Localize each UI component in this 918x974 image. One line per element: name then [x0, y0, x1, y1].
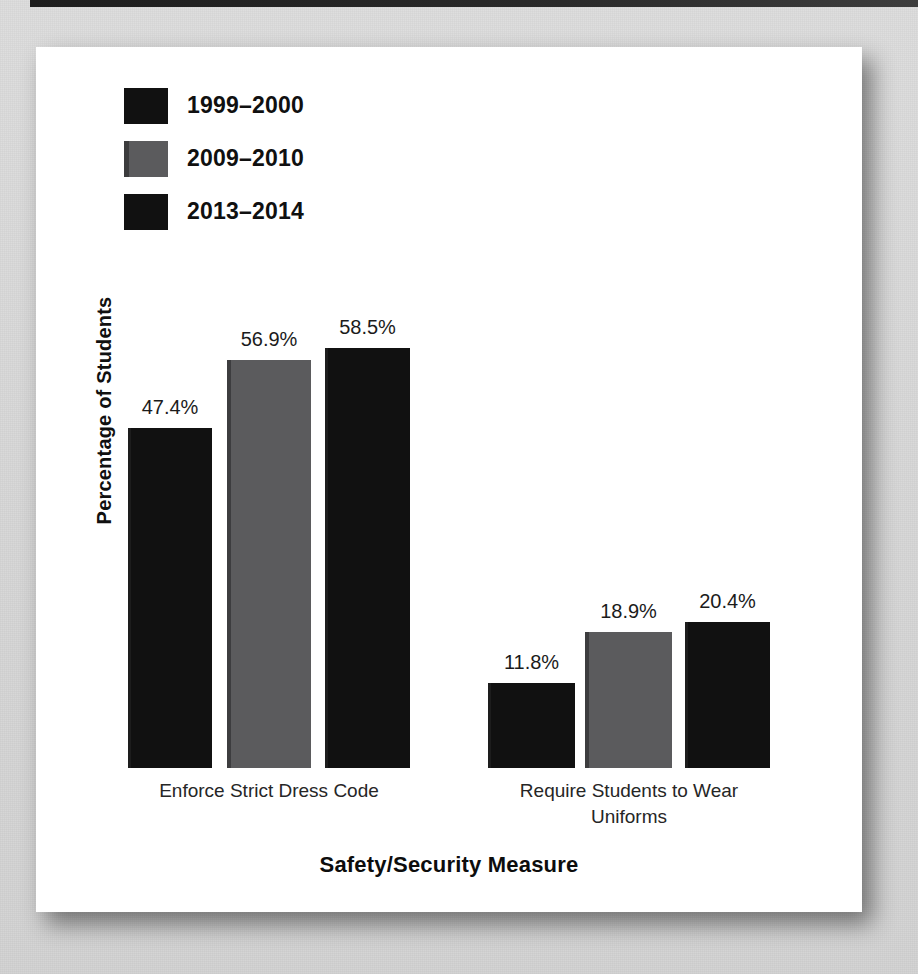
bar-fill	[685, 622, 770, 768]
bar-value-label: 11.8%	[504, 651, 559, 674]
bar-value-label: 18.9%	[600, 600, 657, 623]
bar-fill	[488, 683, 575, 768]
bar-fill	[325, 348, 410, 768]
bar-fill	[227, 360, 311, 768]
bar-enforce-dress-code-2013-2014[interactable]: 58.5%	[325, 348, 410, 768]
bar-require-uniforms-2009-2010[interactable]: 18.9%	[585, 632, 672, 768]
bar-require-uniforms-2013-2014[interactable]: 20.4%	[685, 622, 770, 768]
figure-card: 1999–2000 2009–2010 2013–2014 Percentage…	[36, 47, 862, 912]
bar-value-label: 56.9%	[241, 328, 298, 351]
bar-value-label: 20.4%	[699, 590, 756, 613]
bar-value-label: 58.5%	[339, 316, 396, 339]
bar-enforce-dress-code-2009-2010[interactable]: 56.9%	[227, 360, 311, 768]
page-top-rule	[30, 0, 918, 7]
category-label-require-uniforms: Require Students to Wear Uniforms	[488, 778, 770, 830]
bar-fill	[585, 632, 672, 768]
plot-area: 47.4% 56.9% 58.5% 11.8% 18.9% 20.	[36, 47, 862, 912]
category-label-enforce-dress-code: Enforce Strict Dress Code	[128, 778, 410, 804]
bar-require-uniforms-1999-2000[interactable]: 11.8%	[488, 683, 575, 768]
bar-enforce-dress-code-1999-2000[interactable]: 47.4%	[128, 428, 212, 768]
bar-chart: 1999–2000 2009–2010 2013–2014 Percentage…	[36, 47, 862, 912]
bar-value-label: 47.4%	[142, 396, 199, 419]
bar-fill	[128, 428, 212, 768]
x-axis-title: Safety/Security Measure	[36, 852, 862, 878]
